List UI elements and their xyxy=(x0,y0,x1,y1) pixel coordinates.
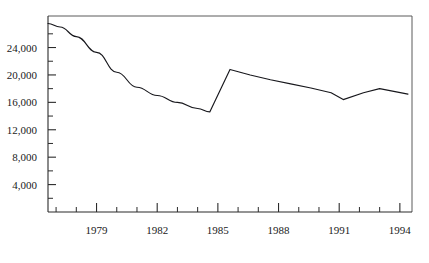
chart-container: 4,0008,00012,00016,00020,00024,000 19791… xyxy=(0,0,429,263)
x-tick-label: 1985 xyxy=(207,224,230,236)
y-tick-label: 8,000 xyxy=(12,151,37,163)
y-tick-label: 4,000 xyxy=(12,179,37,191)
x-tick-label: 1988 xyxy=(268,224,291,236)
x-tick-label: 1994 xyxy=(389,224,412,236)
line-chart: 4,0008,00012,00016,00020,00024,000 19791… xyxy=(0,0,429,263)
x-tick-label: 1991 xyxy=(328,224,350,236)
x-tick-label: 1979 xyxy=(86,224,109,236)
y-tick-label: 12,000 xyxy=(7,124,38,136)
y-tick-label: 24,000 xyxy=(7,42,38,54)
y-tick-label: 20,000 xyxy=(7,69,38,81)
y-tick-label: 16,000 xyxy=(7,96,38,108)
x-tick-label: 1982 xyxy=(146,224,168,236)
